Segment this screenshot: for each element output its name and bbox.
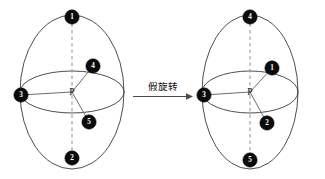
atom-label-left-2: 2 <box>70 154 74 162</box>
left-structure: P 1 4 3 5 2 <box>14 10 124 169</box>
atom-node-right-4[interactable]: 4 <box>243 10 257 24</box>
atom-node-left-1[interactable]: 1 <box>65 10 79 24</box>
atom-node-left-5[interactable]: 5 <box>82 115 96 129</box>
atom-label-right-3: 3 <box>202 91 206 99</box>
atom-label-left-1: 1 <box>70 13 74 21</box>
diagram-canvas: P 1 4 3 5 2 假旋转 <box>0 0 325 179</box>
atom-label-left-4: 4 <box>91 62 95 70</box>
atom-node-right-2[interactable]: 2 <box>260 116 274 130</box>
atom-label-right-1: 1 <box>270 64 274 72</box>
transition-arrow-group: 假旋转 <box>133 81 193 100</box>
pseudorotation-figure: P 1 4 3 5 2 假旋转 <box>0 0 325 179</box>
atom-node-right-5[interactable]: 5 <box>243 153 257 167</box>
atom-label-left-5: 5 <box>87 118 91 126</box>
atom-label-right-4: 4 <box>248 13 252 21</box>
atom-node-left-3[interactable]: 3 <box>14 88 28 102</box>
atom-node-right-3[interactable]: 3 <box>197 88 211 102</box>
atom-node-left-2[interactable]: 2 <box>65 151 79 165</box>
atom-label-right-5: 5 <box>248 156 252 164</box>
right-arrow-icon <box>186 93 193 100</box>
atom-label-left-3: 3 <box>19 91 23 99</box>
center-atom-label-right: P <box>247 87 252 97</box>
bond-center-to-node-3-left <box>21 92 72 95</box>
atom-node-left-4[interactable]: 4 <box>86 59 100 73</box>
center-atom-label-left: P <box>69 87 74 97</box>
right-structure: P 4 1 3 2 5 <box>197 10 298 169</box>
atom-node-right-1[interactable]: 1 <box>265 61 279 75</box>
atom-label-right-2: 2 <box>265 119 269 127</box>
transition-caption: 假旋转 <box>148 81 178 92</box>
